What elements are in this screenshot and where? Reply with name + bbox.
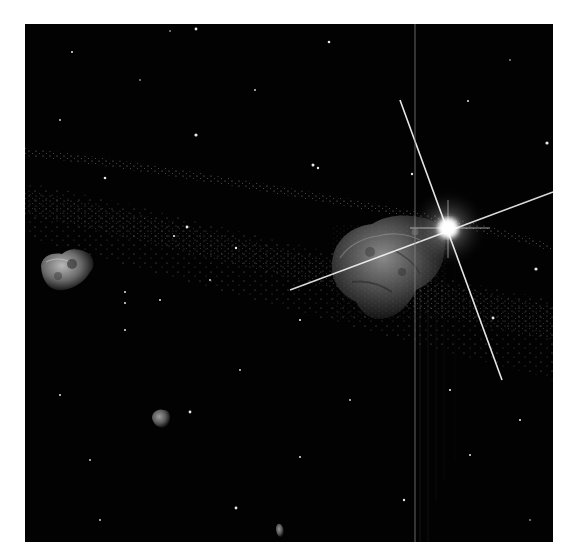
tiny-asteroid-bottom (276, 524, 284, 537)
asteroid-field-scene (25, 24, 553, 542)
small-asteroid-middle (152, 409, 170, 427)
space-image (25, 24, 553, 542)
small-asteroid-left (41, 249, 93, 290)
